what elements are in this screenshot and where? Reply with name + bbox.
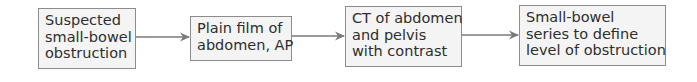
node-text-line: series to define — [526, 26, 660, 43]
node-text-line: obstruction — [45, 45, 130, 62]
node-small-bowel-series: Small-bowel series to define level of ob… — [519, 5, 666, 66]
node-text-line: and pelvis — [352, 27, 456, 44]
node-text-line: level of obstruction — [526, 42, 660, 59]
node-text-line: Small-bowel — [526, 9, 660, 26]
node-text-line: small-bowel — [45, 29, 130, 46]
node-text-line: CT of abdomen — [352, 10, 456, 27]
node-ct-abdomen-pelvis: CT of abdomen and pelvis with contrast — [345, 6, 462, 67]
node-text-line: Suspected — [45, 12, 130, 29]
node-text-line: Plain film of — [197, 20, 286, 37]
node-text-line: abdomen, AP — [197, 37, 286, 54]
node-plain-film: Plain film of abdomen, AP — [190, 16, 292, 61]
node-suspected-obstruction: Suspected small-bowel obstruction — [38, 8, 136, 69]
node-text-line: with contrast — [352, 43, 456, 60]
